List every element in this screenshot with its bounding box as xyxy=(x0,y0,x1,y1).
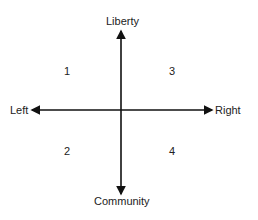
axis-label-right: Right xyxy=(215,104,241,117)
axis-label-top: Liberty xyxy=(106,15,139,28)
quadrant-3-label: 3 xyxy=(169,65,175,78)
quadrant-1-label: 1 xyxy=(64,65,70,78)
axis-label-left: Left xyxy=(10,104,28,117)
quadrant-4-label: 4 xyxy=(169,145,175,158)
quadrant-2-label: 2 xyxy=(64,145,70,158)
axis-label-bottom: Community xyxy=(94,195,150,208)
